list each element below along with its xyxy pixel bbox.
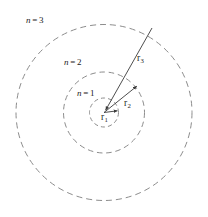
- radius-label-r1: r1: [101, 113, 108, 123]
- radius-label-r3-var: r: [137, 53, 140, 63]
- radius-label-r1-var: r: [101, 112, 104, 122]
- radius-label-r3: r3: [137, 54, 144, 64]
- shell-label-n1-num: 1: [90, 88, 95, 98]
- shell-label-n2-var: n: [64, 57, 69, 67]
- shell-label-n1: n=1: [77, 89, 95, 98]
- radius-label-r1-sub: 1: [105, 116, 109, 123]
- shell-label-n3: n=3: [26, 16, 44, 25]
- radius-label-r2-var: r: [124, 98, 127, 108]
- shell-label-n2: n=2: [64, 58, 82, 67]
- shell-label-n3-var: n: [26, 15, 31, 25]
- radius-line-r3: [106, 28, 152, 110]
- shell-label-n2-eq: =: [69, 57, 77, 67]
- radius-label-r2: r2: [124, 99, 131, 109]
- orbit-diagram-svg: [0, 0, 208, 217]
- shell-label-n1-eq: =: [82, 88, 90, 98]
- shell-label-n1-var: n: [77, 88, 82, 98]
- bohr-model-figure: n=3 n=2 n=1 r3 r2 r1: [0, 0, 208, 217]
- radius-label-r2-sub: 2: [128, 102, 132, 109]
- radius-label-r3-sub: 3: [141, 57, 145, 64]
- shell-label-n3-eq: =: [31, 15, 39, 25]
- shell-label-n2-num: 2: [77, 57, 82, 67]
- shell-label-n3-num: 3: [39, 15, 44, 25]
